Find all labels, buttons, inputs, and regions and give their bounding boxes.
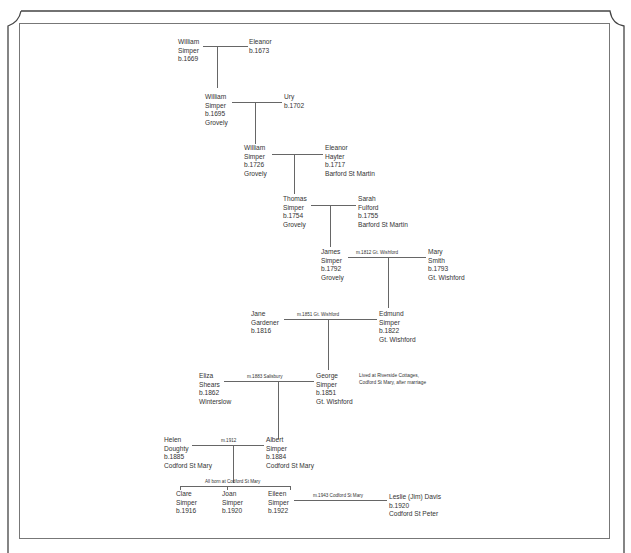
birth-year: b.1755: [358, 212, 408, 221]
marriage-line: [311, 205, 356, 206]
note-line: Lived at Riverside Cottages,: [359, 373, 426, 380]
person-william-1726: William Simper b.1726 Grovely: [244, 144, 267, 178]
birth-year: b.1695: [205, 110, 228, 119]
given-name: William: [205, 93, 228, 102]
given-name: Ury: [284, 93, 304, 102]
marriage-label-helen-albert: m.1912: [221, 438, 236, 444]
person-george-1851: George Simper b.1851 Gt. Wishford: [316, 372, 353, 406]
person-william-1669: William Simper b.1669: [178, 38, 199, 64]
marriage-label-james-mary: m.1812 Gt. Wishford: [356, 250, 398, 256]
birthplace: Codford St Mary: [266, 462, 314, 471]
sibling-line: [180, 486, 290, 487]
birth-year: b.1822: [379, 327, 416, 336]
birthplace: Grovely: [321, 274, 344, 283]
marriage-label-eliza-george: m.1883 Salisbury: [247, 374, 283, 380]
given-name: Eleanor: [249, 38, 272, 47]
person-ury-1702: Ury b.1702: [284, 93, 304, 110]
surname: Simper: [178, 47, 199, 56]
marriage-label-eileen-leslie: m.1943 Codford St Mary: [313, 493, 363, 499]
person-albert-1884: Albert Simper b.1884 Codford St Mary: [266, 436, 314, 470]
descent-line: [255, 102, 256, 144]
birthplace: Grovely: [283, 221, 307, 230]
birthplace: Barford St Martin: [325, 170, 375, 179]
surname: Simper: [176, 499, 197, 508]
birth-year: b.1673: [249, 47, 272, 56]
person-joan-1920: Joan Simper b.1920: [222, 490, 243, 516]
note-george-residence: Lived at Riverside Cottages, Codford St …: [359, 373, 426, 386]
person-eliza-shears: Eliza Shears b.1862 Winterslow: [199, 372, 231, 406]
birthplace: Grovely: [244, 170, 267, 179]
birth-year: b.1816: [251, 327, 279, 336]
note-children-birthplace: All born at Codford St Mary: [205, 479, 260, 485]
marriage-line: [192, 445, 264, 446]
surname: Simper: [205, 102, 228, 111]
person-eleanor-hayter: Eleanor Hayter b.1717 Barford St Martin: [325, 144, 375, 178]
descent-line: [278, 381, 279, 439]
birthplace: Gt. Wishford: [316, 398, 353, 407]
person-clare-1916: Clare Simper b.1916: [176, 490, 197, 516]
birth-year: b.1726: [244, 161, 267, 170]
birthplace: Grovely: [205, 119, 228, 128]
person-leslie-davis: Leslie (Jim) Davis b.1920 Codford St Pet…: [389, 493, 441, 519]
given-name: Clare: [176, 490, 197, 499]
person-edmund-1822: Edmund Simper b.1822 Gt. Wishford: [379, 310, 416, 344]
person-mary-smith: Mary Smith b.1793 Gt. Wishford: [428, 248, 465, 282]
given-name: Leslie (Jim) Davis: [389, 493, 441, 502]
surname: Gardener: [251, 319, 279, 328]
inner-frame: [19, 23, 610, 539]
birth-year: b.1851: [316, 389, 353, 398]
given-name: Joan: [222, 490, 243, 499]
birthplace: Codford St Mary: [164, 462, 212, 471]
descent-line: [388, 257, 389, 308]
given-name: Helen: [164, 436, 212, 445]
person-william-1695: William Simper b.1695 Grovely: [205, 93, 228, 127]
person-eileen-1922: Eileen Simper b.1922: [268, 490, 289, 516]
surname: Simper: [283, 204, 307, 213]
marriage-line: [272, 154, 323, 155]
given-name: Jane: [251, 310, 279, 319]
surname: Hayter: [325, 153, 375, 162]
birth-year: b.1717: [325, 161, 375, 170]
birth-year: b.1793: [428, 265, 465, 274]
birthplace: Winterslow: [199, 398, 231, 407]
descent-line: [328, 319, 329, 370]
birth-year: b.1885: [164, 453, 212, 462]
given-name: Mary: [428, 248, 465, 257]
birthplace: Gt. Wishford: [379, 336, 416, 345]
birth-year: b.1702: [284, 102, 304, 111]
surname: Simper: [222, 499, 243, 508]
given-name: James: [321, 248, 344, 257]
surname: Simper: [316, 381, 353, 390]
child-drop-line: [290, 486, 291, 490]
surname: Simper: [321, 257, 344, 266]
descent-line: [233, 445, 234, 483]
birthplace: Codford St Peter: [389, 510, 441, 519]
marriage-label-jane-edmund: m.1851 Gt. Wishford: [297, 312, 339, 318]
birthplace: Barford St Martin: [358, 221, 408, 230]
birth-year: b.1920: [222, 507, 243, 516]
descent-line: [217, 46, 218, 88]
surname: Simper: [244, 153, 267, 162]
surname: Simper: [266, 445, 314, 454]
given-name: Eliza: [199, 372, 231, 381]
birth-year: b.1669: [178, 55, 199, 64]
person-jane-gardener: Jane Gardener b.1816: [251, 310, 279, 336]
birth-year: b.1792: [321, 265, 344, 274]
person-thomas-1754: Thomas Simper b.1754 Grovely: [283, 195, 307, 229]
person-eleanor-1673: Eleanor b.1673: [249, 38, 272, 55]
marriage-line: [348, 257, 426, 258]
birth-year: b.1916: [176, 507, 197, 516]
given-name: Sarah: [358, 195, 408, 204]
surname: Fulford: [358, 204, 408, 213]
birthplace: Gt. Wishford: [428, 274, 465, 283]
person-james-1792: James Simper b.1792 Grovely: [321, 248, 344, 282]
descent-line: [330, 205, 331, 247]
birth-year: b.1862: [199, 389, 231, 398]
given-name: Thomas: [283, 195, 307, 204]
marriage-line: [232, 102, 282, 103]
given-name: Albert: [266, 436, 314, 445]
given-name: Eleanor: [325, 144, 375, 153]
descent-line: [294, 154, 295, 194]
surname: Smith: [428, 257, 465, 266]
given-name: William: [178, 38, 199, 47]
